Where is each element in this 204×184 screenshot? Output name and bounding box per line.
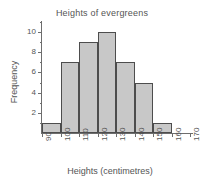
y-tick-mark xyxy=(40,123,42,124)
y-axis-title: Frequency xyxy=(9,44,19,120)
x-tick-label: 170 xyxy=(193,127,201,140)
chart-title: Heights of evergreens xyxy=(0,8,204,18)
plot-area: 246810 90100110120130140150160170 xyxy=(42,22,190,133)
y-tick-mark xyxy=(40,83,42,84)
y-tick-label: 8 xyxy=(32,48,36,56)
y-tick-label: 4 xyxy=(32,89,36,97)
x-tick-mark xyxy=(79,133,80,137)
x-tick-label: 140 xyxy=(138,127,146,140)
y-tick-mark xyxy=(40,22,42,23)
x-tick-label: 160 xyxy=(175,127,183,140)
histogram-chart: Heights of evergreens Frequency 246810 9… xyxy=(0,0,204,184)
histogram-bar xyxy=(61,62,80,133)
histogram-bar xyxy=(79,42,98,133)
x-tick-label: 150 xyxy=(156,127,164,140)
y-tick-mark xyxy=(38,72,42,73)
histogram-bar xyxy=(116,62,135,133)
y-tick-label: 6 xyxy=(32,68,36,76)
y-tick-mark xyxy=(38,113,42,114)
y-tick-mark xyxy=(40,103,42,104)
x-tick-label: 130 xyxy=(119,127,127,140)
x-tick-label: 120 xyxy=(101,127,109,140)
x-tick-mark xyxy=(61,133,62,137)
x-tick-label: 90 xyxy=(45,132,53,141)
x-tick-mark xyxy=(42,133,43,137)
y-tick-label: 2 xyxy=(32,109,36,117)
y-tick-label: 10 xyxy=(27,28,36,36)
x-tick-mark xyxy=(153,133,154,137)
y-tick-mark xyxy=(38,93,42,94)
y-tick-mark xyxy=(40,42,42,43)
x-tick-mark xyxy=(116,133,117,137)
histogram-bar xyxy=(135,83,154,133)
x-tick-mark xyxy=(135,133,136,137)
x-tick-mark xyxy=(98,133,99,137)
x-tick-label: 100 xyxy=(64,127,72,140)
x-tick-mark xyxy=(190,133,191,137)
y-tick-mark xyxy=(38,32,42,33)
y-tick-mark xyxy=(40,62,42,63)
x-tick-label: 110 xyxy=(82,128,90,141)
x-tick-mark xyxy=(172,133,173,137)
x-axis-title: Heights (centimetres) xyxy=(20,166,200,176)
histogram-bar xyxy=(98,32,117,133)
y-tick-mark xyxy=(38,52,42,53)
